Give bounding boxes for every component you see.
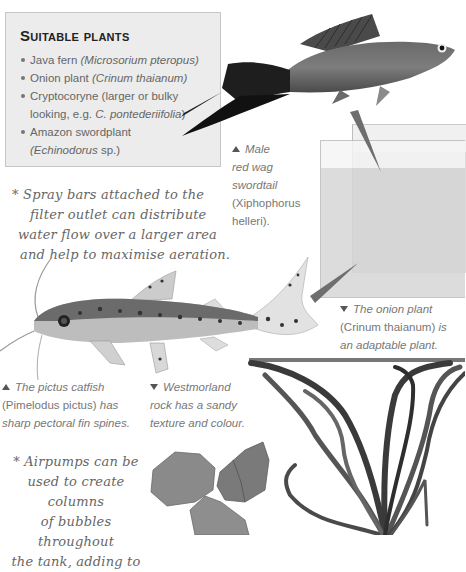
note-line: water flow over a larger area bbox=[10, 225, 250, 245]
caption-line: has bbox=[100, 399, 119, 411]
swordtail-fish-image bbox=[180, 8, 465, 143]
plant-item-amazon-swordplant-continued: (Echinodorus sp.) bbox=[20, 141, 220, 159]
caption-line: Male bbox=[245, 143, 270, 155]
caption-line: Westmorland bbox=[163, 381, 231, 393]
caption-line: The pictus catfish bbox=[15, 381, 104, 393]
plant-common-name: Java fern bbox=[30, 54, 77, 66]
plant-common-name: Cryptocoryne (larger or bulky bbox=[30, 90, 178, 102]
note-line: * Spray bars attached to the bbox=[10, 185, 250, 205]
plant-latin-name: (Crinum thaianum) bbox=[92, 72, 187, 84]
note-line: filter outlet can distribute bbox=[10, 205, 250, 225]
onion-plant-image bbox=[245, 355, 465, 535]
caption-line: The onion plant bbox=[353, 303, 432, 315]
caption-line: (Pimelodus pictus) bbox=[2, 399, 97, 411]
westmorland-rocks-image bbox=[145, 440, 270, 535]
plant-common-name: Onion plant bbox=[30, 72, 89, 84]
caption-line: (Crinum thaianum) bbox=[340, 321, 435, 333]
caption-line: is bbox=[438, 321, 446, 333]
plant-latin-name: C. pontederiifolia bbox=[95, 108, 181, 120]
note-line: of bubbles throughout bbox=[6, 512, 146, 552]
note-line: * Airpumps can be bbox=[6, 452, 146, 472]
caption-line: sharp pectoral fin spines. bbox=[2, 414, 152, 432]
arrow-up-icon bbox=[2, 384, 10, 390]
plant-continuation: looking, e.g. bbox=[30, 108, 92, 120]
note-line: the tank, adding to bbox=[6, 552, 146, 572]
caption-catfish: The pictus catfish (Pimelodus pictus) ha… bbox=[2, 378, 152, 432]
plant-suffix: sp.) bbox=[101, 144, 120, 156]
note-spray-bars: * Spray bars attached to the filter outl… bbox=[10, 185, 250, 265]
arrow-down-icon bbox=[340, 306, 348, 312]
plant-latin-name: (Echinodorus bbox=[30, 144, 98, 156]
caption-line: rock has a sandy bbox=[150, 396, 260, 414]
caption-onion-plant: The onion plant (Crinum thaianum) is an … bbox=[340, 300, 465, 354]
caption-line: red wag bbox=[232, 158, 307, 176]
caption-line: an adaptable plant. bbox=[340, 336, 465, 354]
aquarium-tank-image bbox=[320, 140, 465, 298]
note-airpumps: * Airpumps can be used to create columns… bbox=[6, 452, 146, 572]
arrow-down-icon bbox=[150, 384, 158, 390]
arrow-up-icon bbox=[232, 146, 240, 152]
note-line: used to create columns bbox=[6, 472, 146, 512]
caption-line: texture and colour. bbox=[150, 414, 260, 432]
plant-common-name: Amazon swordplant bbox=[30, 126, 131, 138]
caption-rock: Westmorland rock has a sandy texture and… bbox=[150, 378, 260, 432]
